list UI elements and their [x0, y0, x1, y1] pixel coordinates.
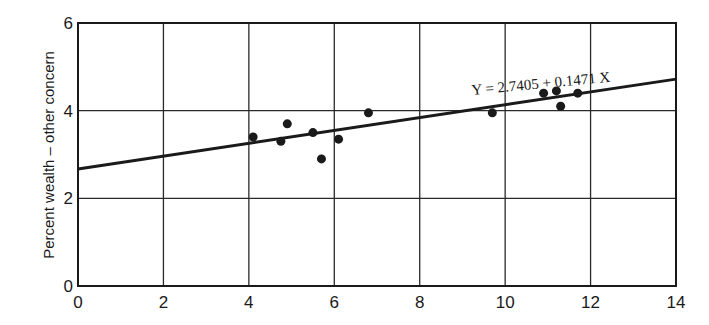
data-point [573, 89, 582, 98]
y-tick-label: 0 [64, 277, 73, 296]
data-point [249, 132, 258, 141]
regression-line [78, 79, 676, 169]
x-axis-ticks: 02468101214 [73, 293, 685, 312]
data-point [334, 135, 343, 144]
data-point [276, 137, 285, 146]
x-tick-label: 12 [581, 293, 600, 312]
data-point [317, 154, 326, 163]
data-point [283, 119, 292, 128]
x-tick-label: 6 [330, 293, 339, 312]
data-point [556, 102, 565, 111]
x-tick-label: 8 [415, 293, 424, 312]
data-point [364, 108, 373, 117]
y-tick-label: 6 [64, 14, 73, 33]
scatter-chart: 02468101214 0246 Y = 2.7405 + 0.1471 X P… [0, 0, 709, 325]
y-tick-label: 4 [64, 102, 73, 121]
x-tick-label: 0 [73, 293, 82, 312]
x-tick-label: 4 [244, 293, 253, 312]
x-tick-label: 10 [496, 293, 515, 312]
y-tick-label: 2 [64, 189, 73, 208]
data-point [308, 128, 317, 137]
y-axis-label: Percent wealth – other concern [40, 51, 57, 259]
data-points [249, 86, 583, 163]
x-tick-label: 2 [159, 293, 168, 312]
y-axis-ticks: 0246 [64, 14, 73, 296]
x-tick-label: 14 [667, 293, 686, 312]
data-point [488, 108, 497, 117]
